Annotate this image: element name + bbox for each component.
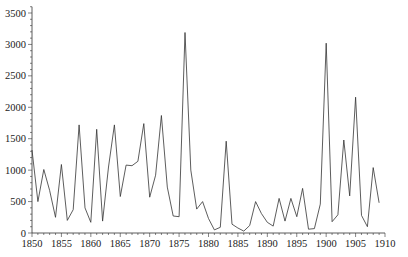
x-tick-label: 1890 [257, 238, 278, 249]
x-tick-label: 1875 [169, 238, 190, 249]
y-tick-label: 3000 [5, 39, 26, 50]
x-tick-label: 1895 [286, 238, 307, 249]
x-tick-label: 1900 [316, 238, 337, 249]
data-series-line [32, 33, 379, 232]
x-tick-label: 1905 [345, 238, 366, 249]
x-tick-label: 1880 [198, 238, 219, 249]
x-tick-label: 1860 [80, 238, 101, 249]
x-tick-label: 1885 [227, 238, 248, 249]
y-tick-label: 500 [10, 196, 26, 207]
y-tick-label: 1000 [5, 165, 26, 176]
y-tick-label: 1500 [5, 133, 26, 144]
x-tick-label: 1910 [375, 238, 396, 249]
y-axis: 0500100015002000250030003500 [5, 7, 32, 239]
y-tick-label: 0 [21, 228, 26, 239]
line-chart: 0500100015002000250030003500 18501855186… [0, 0, 408, 257]
y-tick-label: 3500 [5, 8, 26, 19]
y-tick-label: 2000 [5, 102, 26, 113]
x-tick-label: 1865 [110, 238, 131, 249]
x-tick-label: 1855 [51, 238, 72, 249]
x-axis: 1850185518601865187018751880188518901895… [22, 233, 396, 249]
x-tick-label: 1850 [22, 238, 43, 249]
y-tick-label: 2500 [5, 70, 26, 81]
x-tick-label: 1870 [139, 238, 160, 249]
